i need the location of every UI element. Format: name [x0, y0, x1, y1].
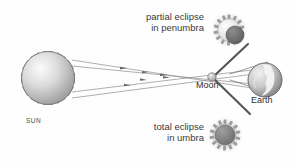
earth-body — [248, 63, 282, 97]
total-eclipse-label-line1: total eclipse — [120, 121, 204, 132]
total-eclipse-label: total eclipse in umbra — [120, 121, 204, 143]
partial-eclipse-label-line2: in penumbra — [122, 22, 204, 33]
partial-eclipse-moon-disc — [226, 26, 244, 44]
sun-label: SUN — [26, 117, 41, 125]
partial-eclipse-label: partial eclipse in penumbra — [122, 11, 204, 33]
ray-arrow-3 — [140, 78, 147, 81]
ray-arrow-4 — [163, 76, 170, 79]
partial-eclipse-icon — [209, 10, 249, 50]
total-eclipse-moon-disc — [215, 125, 235, 145]
moon-label: Moon — [196, 80, 219, 91]
sun-disc — [22, 52, 75, 105]
sun-body — [22, 52, 75, 105]
total-eclipse-icon — [205, 115, 245, 155]
penumbra-line-lower — [214, 79, 250, 114]
total-eclipse-label-line2: in umbra — [120, 132, 204, 143]
eclipse-diagram: partial eclipse in penumbra total eclips… — [0, 0, 295, 163]
partial-eclipse-label-line1: partial eclipse — [122, 11, 204, 22]
earth-label: Earth — [251, 95, 273, 106]
